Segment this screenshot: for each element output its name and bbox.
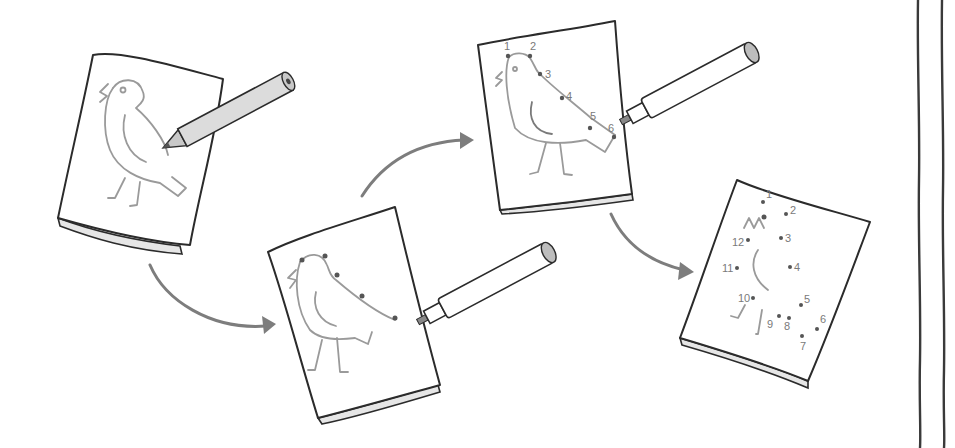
step-3-numbered-dots: 1 2 3 4 5 6 (478, 21, 762, 214)
dot-number: 9 (767, 318, 773, 330)
dot-number: 12 (732, 236, 744, 248)
step-4-finished-puzzle: 1 2 3 4 5 6 7 8 9 10 11 12 (680, 180, 870, 388)
connect-the-dots-illustration: 1 2 3 4 5 6 (0, 0, 955, 448)
dot-number: 11 (722, 262, 733, 274)
pen-icon (413, 240, 559, 332)
dot-number: 2 (790, 204, 796, 216)
dot-number: 1 (504, 40, 510, 52)
dot-number: 8 (784, 320, 790, 332)
dot-number: 3 (785, 232, 791, 244)
dot-number: 5 (804, 293, 810, 305)
pen-icon (616, 40, 762, 132)
dot-number: 5 (590, 110, 596, 122)
dot-number: 4 (794, 261, 800, 273)
dot-number: 10 (738, 292, 750, 304)
dot-number: 7 (800, 340, 806, 352)
dot-number: 1 (766, 188, 772, 200)
right-border-decoration (918, 0, 944, 448)
arrow-step3-to-step4 (611, 214, 694, 280)
step-1-pencil-sketch (58, 54, 297, 254)
dot-number: 2 (530, 40, 536, 52)
dot-number: 4 (566, 90, 572, 102)
dot-number: 6 (820, 313, 826, 325)
arrow-step1-to-step2 (150, 265, 276, 334)
dot-number: 6 (608, 122, 614, 134)
dot-number: 3 (545, 68, 551, 80)
step-2-dots-marked (268, 207, 559, 424)
arrow-step2-to-step3 (362, 132, 474, 196)
